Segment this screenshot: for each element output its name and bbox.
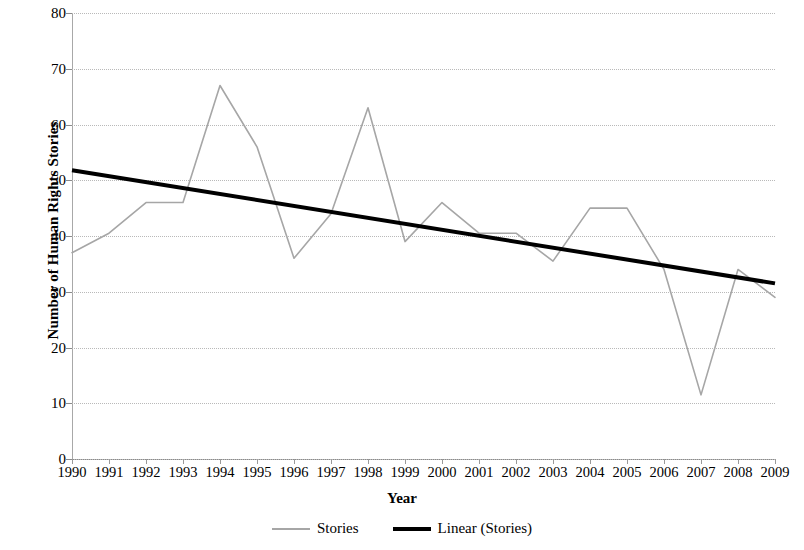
y-axis-tick-label: 40 [6,229,66,244]
gridline [72,459,775,460]
y-axis-tick-label: 70 [6,61,66,76]
y-axis-tick-label: 60 [6,117,66,132]
x-axis-tick-label: 2009 [749,463,801,481]
y-axis-tick-label: 50 [6,173,66,188]
chart-container: Number of Human Rights Stories 010203040… [0,0,804,550]
y-axis-tick-label: 10 [6,396,66,411]
chart-legend: Stories Linear (Stories) [0,521,804,536]
legend-item-stories: Stories [272,521,359,536]
y-axis-tick-label: 80 [6,6,66,21]
legend-label-stories: Stories [317,521,359,536]
series-plot [72,13,775,459]
legend-swatch-stories-icon [272,528,310,530]
legend-label-linear-stories: Linear (Stories) [438,521,533,536]
series-line-stories [72,85,775,394]
x-axis-tick-labels: 1990199119921993199419951996199719981999… [0,463,804,489]
plot-area [72,13,775,459]
y-axis-tick-label: 20 [6,340,66,355]
y-axis-tick-label: 30 [6,284,66,299]
legend-swatch-linear-icon [393,527,431,531]
legend-item-linear-stories: Linear (Stories) [393,521,533,536]
series-trendline-linear [72,170,775,283]
x-axis-title: Year [0,490,804,507]
